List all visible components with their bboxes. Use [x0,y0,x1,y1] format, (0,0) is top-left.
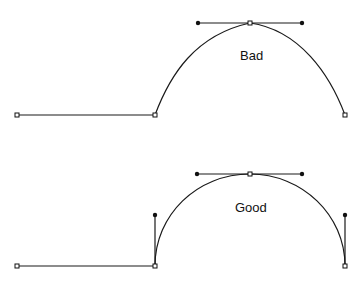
bad-curve-left [155,23,250,115]
bad-anchor-top[interactable] [248,21,252,25]
good-anchor-left[interactable] [15,264,19,268]
bad-anchor-join[interactable] [153,113,157,117]
good-anchor-join[interactable] [153,264,157,268]
bad-control-points [15,21,347,117]
bad-handle-left-dot[interactable] [196,21,200,25]
good-anchor-right[interactable] [343,264,347,268]
bad-anchor-left[interactable] [15,113,19,117]
good-handle-right-dot[interactable] [343,213,347,217]
good-handle-top-left-dot[interactable] [195,172,199,176]
diagram-svg [0,0,363,285]
good-curve-right [250,174,345,266]
good-handle-top-right-dot[interactable] [300,172,304,176]
bezier-continuity-diagram: Bad Good [0,0,363,285]
bad-figure [17,23,345,115]
bad-label: Bad [240,49,263,62]
bad-anchor-right[interactable] [343,113,347,117]
bad-handle-right-dot[interactable] [300,21,304,25]
good-handle-left-dot[interactable] [153,213,157,217]
good-label: Good [235,201,267,214]
good-figure [17,174,345,266]
good-anchor-top[interactable] [248,172,252,176]
bad-curve-right [250,23,345,115]
good-curve-left [155,174,250,266]
